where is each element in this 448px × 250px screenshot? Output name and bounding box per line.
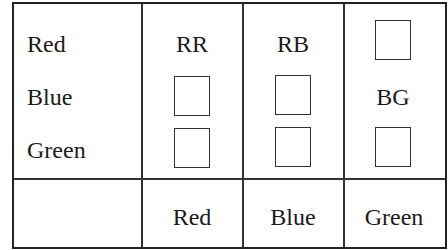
row-label-green: Green <box>27 136 86 164</box>
empty-cell-box <box>174 128 210 168</box>
column-label-blue: Blue <box>270 203 315 231</box>
column-divider <box>141 4 143 247</box>
empty-cell-box <box>375 127 411 167</box>
empty-cell-box <box>375 20 411 60</box>
column-divider <box>242 4 244 247</box>
column-label-green: Green <box>365 203 424 231</box>
row-divider <box>14 178 445 180</box>
column-divider <box>343 4 345 247</box>
cell-bg: BG <box>376 83 409 111</box>
row-label-blue: Blue <box>27 83 72 111</box>
empty-cell-box <box>275 127 311 167</box>
empty-cell-box <box>275 75 311 115</box>
column-label-red: Red <box>173 203 212 231</box>
empty-cell-box <box>174 76 210 116</box>
row-label-red: Red <box>27 30 66 58</box>
cell-rr: RR <box>176 30 208 58</box>
punnett-grid: Red Blue Green RR RB BG Red Blue Green <box>12 2 447 249</box>
cell-rb: RB <box>277 30 309 58</box>
